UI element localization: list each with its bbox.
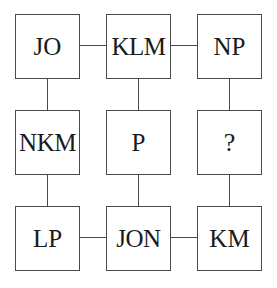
grid-cell-label-r2c1: NKM (19, 130, 76, 155)
grid-cell-label-r2c3: ? (224, 130, 236, 156)
grid-cell-label-r2c2: P (132, 130, 146, 155)
connector-col1-row2-row3 (47, 174, 48, 206)
connector-col3-row1-row2 (229, 78, 230, 110)
connector-row3-col1-col2 (80, 237, 106, 238)
grid-cell-label-r1c2: KLM (111, 34, 165, 59)
connector-col2-row1-row2 (138, 78, 139, 110)
connector-row1-col1-col2 (80, 45, 106, 46)
grid-cell-r2c3-unknown[interactable]: ? (197, 110, 262, 175)
grid-cell-label-r3c1: LP (33, 226, 62, 251)
connector-row1-col2-col3 (171, 45, 197, 46)
grid-cell-label-r3c2: JON (116, 226, 160, 251)
connector-row3-col2-col3 (171, 237, 197, 238)
grid-cell-r1c1[interactable]: JO (15, 14, 80, 79)
grid-cell-label-r1c3: NP (214, 34, 246, 59)
grid-cell-label-r1c1: JO (34, 34, 62, 59)
puzzle-diagram: JO KLM NP NKM P ? LP JON KM (0, 0, 277, 288)
connector-col1-row1-row2 (47, 78, 48, 110)
grid-cell-r1c2[interactable]: KLM (106, 14, 171, 79)
connector-col3-row2-row3 (229, 174, 230, 206)
grid-cell-r3c1[interactable]: LP (15, 206, 80, 271)
grid-cell-r3c2[interactable]: JON (106, 206, 171, 271)
grid-cell-label-r3c3: KM (209, 226, 249, 251)
grid-cell-r3c3[interactable]: KM (197, 206, 262, 271)
connector-col2-row2-row3 (138, 174, 139, 206)
grid-cell-r1c3[interactable]: NP (197, 14, 262, 79)
grid-cell-r2c2[interactable]: P (106, 110, 171, 175)
grid-cell-r2c1[interactable]: NKM (15, 110, 80, 175)
